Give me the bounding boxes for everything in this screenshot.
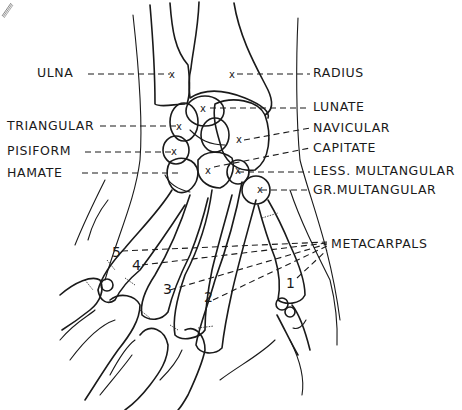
phalanx-3 [125, 328, 168, 410]
sesamoid-5 [101, 279, 113, 291]
marker-triangular: x [176, 121, 182, 132]
phalanx-2 [178, 329, 205, 410]
sesamoid-2 [285, 307, 295, 317]
metacarpal-1 [258, 200, 305, 303]
marker-ulna: x [169, 69, 175, 80]
label-radius: RADIUS [313, 67, 364, 80]
marker-navicular: x [236, 134, 242, 145]
marker-gr-multangular: x [257, 184, 263, 195]
anatomy-diagram: x x x x x x x x x ULNA TRIANGULAR PISIFO… [0, 0, 462, 410]
label-triangular: TRIANGULAR [7, 120, 94, 133]
marker-lunate: x [200, 103, 206, 114]
label-navicular: NAVICULAR [313, 122, 390, 135]
triangular-bone [170, 103, 198, 141]
label-gr-multangular: GR.MULTANGULAR [313, 184, 436, 197]
hand-bones-drawing: x x x x x x x x x [0, 0, 462, 410]
label-pisiform: PISIFORM [7, 145, 71, 158]
ulna-inner [170, 3, 189, 104]
marker-less-multangular: x [235, 165, 241, 176]
marker-capitate: x [205, 165, 211, 176]
metacarpal-4 [142, 195, 208, 319]
label-less-multangular: LESS. MULTANGULAR [313, 165, 455, 178]
phalanx-5 [60, 278, 102, 330]
metacarpal-number-2: 2 [204, 290, 213, 304]
label-ulna: ULNA [37, 67, 73, 80]
metacarpal-number-5: 5 [112, 245, 121, 259]
carpal-bones [163, 96, 270, 204]
label-metacarpals: METACARPALS [331, 238, 427, 251]
radius-outer [234, 3, 271, 115]
label-hamate: HAMATE [7, 167, 62, 180]
metacarpal-number-1: 1 [286, 276, 295, 290]
corner-mark [2, 3, 13, 18]
label-lunate: LUNATE [313, 101, 365, 114]
marker-radius: x [229, 69, 235, 80]
forearm-outline-left [105, 15, 141, 280]
marker-pisiform: x [171, 146, 177, 157]
label-capitate: CAPITATE [313, 142, 376, 155]
leader-navicular [244, 128, 310, 140]
metacarpal-number-4: 4 [132, 258, 141, 272]
metacarpal-number-3: 3 [163, 282, 172, 296]
leader-metacarpal-2 [213, 246, 327, 300]
ulna-bone [150, 5, 185, 106]
capitate-bone [198, 152, 233, 188]
